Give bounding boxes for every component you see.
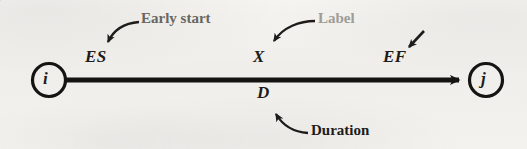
duration-symbol: D bbox=[257, 84, 269, 101]
activity-label-callout-text: Label bbox=[318, 11, 355, 26]
activity-on-arrow-diagram: i j ES X EF D Early start Label Duration bbox=[0, 0, 527, 149]
node-j-circle bbox=[470, 64, 503, 97]
node-j-label: j bbox=[481, 70, 486, 87]
early-finish-symbol: EF bbox=[383, 48, 407, 65]
node-j bbox=[470, 64, 503, 97]
early-start-symbol: ES bbox=[85, 48, 107, 65]
node-i-circle bbox=[33, 64, 66, 97]
diagram-graphics bbox=[0, 0, 527, 149]
node-i bbox=[33, 64, 66, 97]
activity-label-symbol: X bbox=[253, 48, 264, 65]
duration-callout-text: Duration bbox=[311, 123, 369, 138]
early-start-callout-text: Early start bbox=[141, 11, 211, 26]
duration-callout-arrow bbox=[276, 114, 308, 133]
node-i-label: i bbox=[43, 70, 48, 87]
early-finish-callout-arrow bbox=[409, 31, 424, 47]
label-callout-arrow bbox=[274, 21, 315, 41]
early-start-callout-arrow bbox=[108, 22, 139, 42]
